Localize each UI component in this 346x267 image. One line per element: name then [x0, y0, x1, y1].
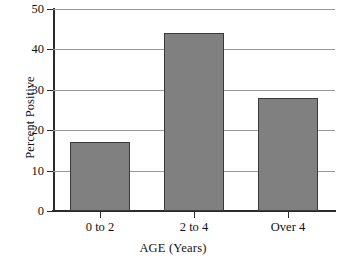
y-axis-tick-label: 50	[32, 3, 45, 16]
y-axis-tick	[47, 90, 53, 91]
x-axis-tick	[100, 211, 101, 218]
y-axis-tick-label: 20	[32, 124, 45, 137]
x-axis-tick-label: Over 4	[271, 221, 305, 234]
y-axis-tick-label: 40	[32, 43, 45, 56]
bar-2-to-4	[164, 33, 224, 211]
x-axis-tick-label: 2 to 4	[180, 221, 208, 234]
y-axis-tick	[47, 130, 53, 131]
bar-0-to-2	[70, 142, 130, 211]
y-axis-tick	[47, 49, 53, 50]
bar-over-4	[258, 98, 318, 211]
y-axis-tick-label: 30	[32, 84, 45, 97]
gridline	[53, 9, 335, 10]
plot-area: 01020304050 0 to 22 to 4Over 4	[53, 9, 335, 211]
y-axis-tick	[47, 171, 53, 172]
y-axis-tick-label: 10	[32, 164, 45, 177]
y-axis-line	[53, 8, 55, 212]
x-axis-title: AGE (Years)	[0, 241, 346, 256]
y-axis-tick	[47, 211, 53, 212]
x-axis-tick	[194, 211, 195, 218]
bar-chart-figure: Percent Positive 01020304050 0 to 22 to …	[0, 0, 346, 267]
x-axis-tick-label: 0 to 2	[86, 221, 114, 234]
x-axis-tick	[288, 211, 289, 218]
y-axis-tick	[47, 9, 53, 10]
y-axis-tick-label: 0	[38, 205, 44, 218]
